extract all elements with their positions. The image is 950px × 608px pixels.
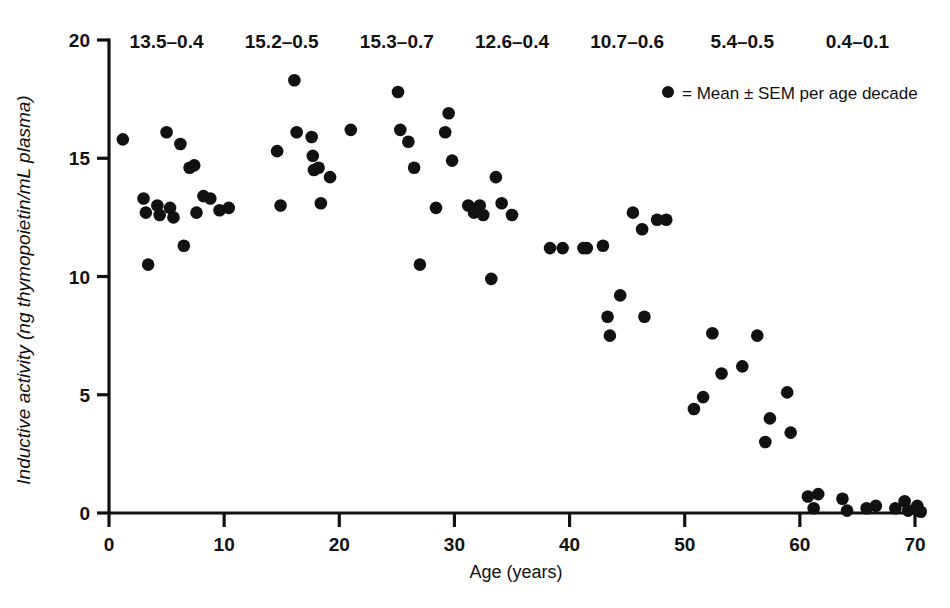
x-axis-title: Age (years)	[469, 562, 562, 582]
x-tick-label: 20	[329, 534, 350, 555]
data-point	[627, 206, 640, 219]
data-point	[140, 206, 153, 219]
y-axis-ticks	[97, 40, 109, 513]
y-tick-label: 10	[69, 267, 90, 288]
data-point	[167, 211, 180, 224]
data-point	[117, 133, 130, 146]
data-point	[495, 197, 508, 210]
data-point	[439, 126, 452, 139]
data-point	[485, 273, 498, 286]
decade-summary-label: 12.6–0.4	[475, 31, 549, 52]
data-point	[490, 171, 503, 184]
data-point	[160, 126, 173, 139]
x-tick-label: 70	[904, 534, 925, 555]
data-point	[759, 436, 772, 449]
decade-summary-label: 13.5–0.4	[130, 31, 204, 52]
axes: 05101520 010203040506070	[69, 30, 926, 555]
data-point	[544, 242, 557, 255]
data-point	[446, 154, 459, 167]
data-point	[222, 202, 235, 215]
scatter-chart-figure: 13.5–0.415.2–0.515.3–0.712.6–0.410.7–0.6…	[0, 0, 950, 608]
data-point	[751, 329, 764, 342]
x-tick-label: 10	[214, 534, 235, 555]
data-point	[408, 161, 421, 174]
y-axis-title: Inductive activity (ng thymopoietin/mL p…	[13, 95, 34, 484]
data-point	[688, 403, 701, 416]
data-point	[715, 367, 728, 380]
y-axis-tick-labels: 05101520	[69, 30, 91, 524]
data-point	[556, 242, 569, 255]
decade-summary-label: 0.4–0.1	[826, 31, 890, 52]
data-point	[178, 239, 191, 252]
data-point	[614, 289, 627, 302]
data-point	[581, 242, 594, 255]
decade-summary-label: 15.3–0.7	[360, 31, 434, 52]
data-point	[764, 412, 777, 425]
data-point	[784, 426, 797, 439]
data-point	[812, 488, 825, 501]
data-point	[604, 329, 617, 342]
y-tick-label: 5	[79, 385, 90, 406]
axis-lines	[109, 40, 924, 513]
data-point	[706, 327, 719, 340]
data-point	[153, 209, 166, 222]
data-point	[190, 206, 203, 219]
data-point	[636, 223, 649, 236]
legend-label: = Mean ± SEM per age decade	[682, 84, 918, 103]
y-tick-label: 20	[69, 30, 90, 51]
data-point	[841, 504, 854, 517]
x-tick-label: 40	[559, 534, 580, 555]
data-point	[807, 502, 820, 515]
legend-marker-icon	[662, 86, 674, 98]
x-tick-label: 60	[789, 534, 810, 555]
data-point	[204, 192, 217, 205]
data-point	[638, 310, 651, 323]
data-point	[402, 135, 415, 148]
data-point	[188, 159, 201, 172]
data-point	[274, 199, 287, 212]
x-tick-label: 50	[674, 534, 695, 555]
data-point	[781, 386, 794, 399]
data-point	[442, 107, 455, 120]
scatter-points	[117, 74, 928, 518]
data-point	[142, 258, 155, 271]
data-point	[394, 124, 407, 137]
data-point	[312, 161, 325, 174]
data-point	[914, 506, 927, 519]
data-point	[305, 131, 318, 144]
data-point	[597, 239, 610, 252]
data-point	[477, 209, 490, 222]
data-point	[660, 213, 673, 226]
data-point	[870, 500, 883, 513]
x-axis-tick-labels: 010203040506070	[104, 534, 926, 555]
data-point	[506, 209, 519, 222]
decade-summary-label: 5.4–0.5	[711, 31, 775, 52]
data-point	[736, 360, 749, 373]
data-point	[174, 138, 187, 151]
data-point	[290, 126, 303, 139]
decade-summary-label: 15.2–0.5	[245, 31, 319, 52]
data-point	[430, 202, 443, 215]
x-tick-label: 0	[104, 534, 115, 555]
x-axis-ticks	[109, 513, 915, 527]
data-point	[414, 258, 427, 271]
decade-summary-label-row: 13.5–0.415.2–0.515.3–0.712.6–0.410.7–0.6…	[130, 31, 890, 52]
data-point	[697, 391, 710, 404]
data-point	[307, 150, 320, 163]
chart-canvas: 13.5–0.415.2–0.515.3–0.712.6–0.410.7–0.6…	[0, 0, 950, 608]
data-point	[137, 192, 150, 205]
data-point	[601, 310, 614, 323]
data-point	[288, 74, 301, 87]
legend: = Mean ± SEM per age decade	[662, 84, 918, 103]
decade-summary-label: 10.7–0.6	[590, 31, 664, 52]
y-tick-label: 15	[69, 148, 91, 169]
data-point	[271, 145, 284, 158]
data-point	[345, 124, 358, 137]
data-point	[315, 197, 328, 210]
data-point	[836, 493, 849, 506]
data-point	[324, 171, 337, 184]
data-point	[392, 86, 405, 99]
x-tick-label: 30	[444, 534, 465, 555]
y-tick-label: 0	[79, 503, 90, 524]
